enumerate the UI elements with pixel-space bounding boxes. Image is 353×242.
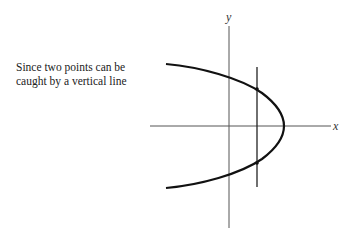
x-axis-label: x — [332, 119, 339, 133]
intersection-point-lower — [255, 161, 259, 165]
diagram: y x — [0, 0, 353, 242]
intersection-point-upper — [255, 87, 259, 91]
y-axis-label: y — [225, 10, 232, 24]
